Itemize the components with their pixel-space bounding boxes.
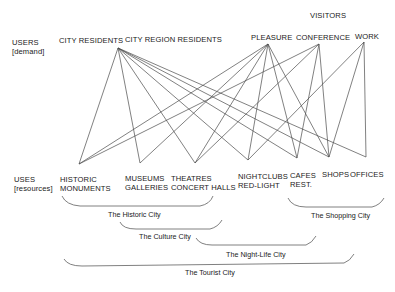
node-work: WORK [355, 32, 379, 41]
brace-night-life-city [196, 236, 316, 245]
brace-historic-city [62, 196, 213, 206]
brace-shopping-city [288, 198, 384, 207]
node-cafes-line1: CAFES [290, 171, 316, 180]
caption-tourist-city: The Tourist City [185, 268, 235, 277]
node-museums-line2: GALLERIES [125, 183, 168, 192]
uses-label: USES [14, 175, 35, 184]
node-city-residents: CITY RESIDENTS [59, 36, 123, 45]
edges-pleasure [79, 44, 329, 164]
node-city-region-residents: CITY REGION RESIDENTS [125, 35, 222, 44]
users-sublabel: [demand] [12, 47, 44, 56]
node-cafes-line2: REST. [290, 180, 312, 189]
node-pleasure: PLEASURE [251, 33, 292, 42]
brace-culture-city [120, 220, 222, 229]
users-label: USERS [12, 38, 39, 47]
node-theatres-line1: THEATRES [171, 174, 212, 183]
caption-shopping-city: The Shopping City [311, 211, 370, 220]
node-conference: CONFERENCE [296, 33, 350, 42]
visitors-heading: VISITORS [310, 11, 346, 20]
edges-conference [79, 44, 329, 164]
node-museums-line1: MUSEUMS [125, 174, 165, 183]
brace-tourist-city [64, 254, 354, 266]
node-shops: SHOPS [322, 170, 349, 179]
node-offices: OFFICES [350, 170, 384, 179]
node-nightclubs-line2: RED-LIGHT [238, 181, 280, 190]
uses-sublabel: [resources] [14, 184, 53, 193]
node-nightclubs-line1: NIGHTCLUBS [238, 172, 288, 181]
edges-work [248, 42, 366, 160]
node-historic-line2: MONUMENTS [60, 184, 111, 193]
node-historic-line1: HISTORIC [60, 175, 97, 184]
caption-culture-city: The Culture City [139, 232, 191, 241]
caption-night-life-city: The Night-Life City [226, 250, 286, 259]
edges-city-residents [79, 48, 366, 164]
caption-historic-city: The Historic City [108, 210, 161, 219]
node-theatres-line2: CONCERT HALLS [171, 183, 236, 192]
